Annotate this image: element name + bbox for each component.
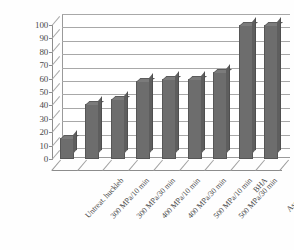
y-tick-label: 10 — [39, 141, 48, 150]
bar-side-face — [98, 96, 102, 154]
bar-side-face — [201, 71, 205, 154]
bar — [188, 79, 202, 159]
bar — [111, 99, 125, 159]
bar-side-face — [149, 74, 153, 154]
y-tick-label: 90 — [39, 34, 48, 43]
bar — [264, 25, 278, 159]
bars-layer — [52, 14, 290, 171]
y-tick-label: 40 — [39, 101, 48, 110]
y-axis: 0102030405060708090100 — [24, 14, 52, 169]
y-tick-label: 0 — [44, 155, 48, 164]
y-tick-label: 30 — [39, 114, 48, 123]
y-tick-label: 70 — [39, 61, 48, 70]
x-tick-label: Ascorbic acid — [285, 176, 294, 214]
bar-side-face — [226, 64, 230, 154]
y-tick-label: 80 — [39, 47, 48, 56]
bar — [213, 72, 227, 159]
bar-side-face — [277, 17, 281, 154]
bar — [85, 104, 99, 159]
bar-side-face — [252, 17, 256, 154]
bar-side-face — [73, 130, 77, 154]
bar-side-face — [175, 71, 179, 154]
bar — [60, 138, 74, 159]
y-tick-label: 60 — [39, 74, 48, 83]
y-tick-label: 50 — [39, 88, 48, 97]
bar — [136, 81, 150, 159]
bar-chart-figure: 0102030405060708090100 Untreat. huckleb3… — [0, 0, 294, 250]
y-tick-label: 100 — [35, 21, 48, 30]
y-tick-label: 20 — [39, 128, 48, 137]
bar — [239, 25, 253, 159]
x-axis-labels: Untreat. huckleb300 MPa/10 min300 MPa/30… — [0, 172, 294, 250]
bar-side-face — [124, 91, 128, 154]
bar — [162, 79, 176, 159]
